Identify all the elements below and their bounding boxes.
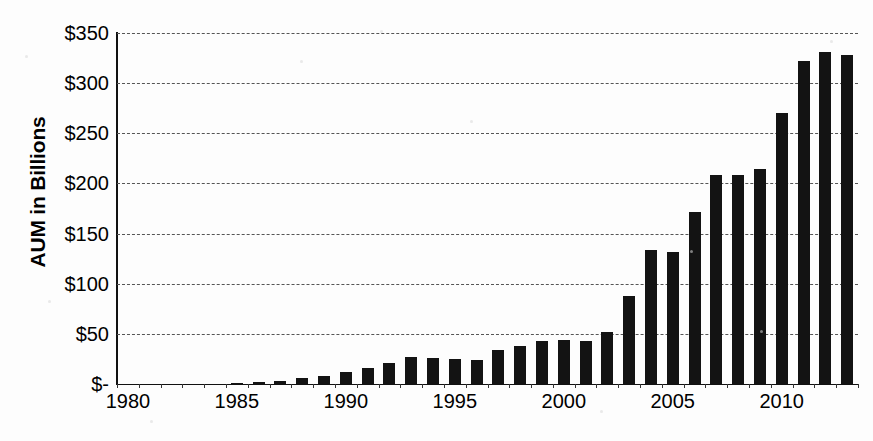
x-tick [182,384,183,388]
x-tick [575,384,576,388]
bar [274,381,286,384]
y-tick-label: $250 [33,122,109,145]
x-tick [553,384,554,388]
x-tick [466,384,467,388]
y-tick-label: $300 [33,72,109,95]
x-tick [270,384,271,388]
speck [25,55,28,58]
bar [427,358,439,384]
speck [600,410,603,413]
x-tick [204,384,205,388]
x-tick [422,384,423,388]
y-tick-label: $150 [33,222,109,245]
speck [760,330,763,333]
bar [710,175,722,384]
x-tick [793,384,794,388]
x-tick [291,384,292,388]
bar [471,360,483,384]
bar [645,250,657,384]
bar [558,340,570,384]
x-tick [727,384,728,388]
bar [819,52,831,384]
bar [798,61,810,384]
bar [318,376,330,384]
gridline [117,33,858,34]
x-tick [139,384,140,388]
x-tick [509,384,510,388]
x-tick [662,384,663,388]
bar [732,175,744,384]
bar [841,55,853,384]
speck [830,40,833,43]
bar [514,346,526,384]
x-tick [749,384,750,388]
x-tick [226,384,227,388]
x-tick [771,384,772,388]
x-tick [684,384,685,388]
y-tick-label: $350 [33,22,109,45]
bar [405,357,417,384]
x-tick [858,384,859,388]
x-tick [640,384,641,388]
bar [492,350,504,384]
bar [253,382,265,384]
x-tick-label: 1985 [215,390,260,413]
speck [690,250,693,253]
gridline [117,334,858,335]
speck [48,300,51,303]
plot-area [117,33,858,384]
bar [362,368,374,384]
x-tick [379,384,380,388]
x-tick-label: 1995 [433,390,478,413]
x-tick [117,384,118,388]
x-tick-label: 2000 [542,390,587,413]
gridline [117,83,858,84]
bar [754,169,766,384]
speck [150,420,153,423]
bar [689,212,701,384]
gridline [117,284,858,285]
x-tick [836,384,837,388]
y-tick-label: $200 [33,172,109,195]
x-tick-label: 1980 [106,390,151,413]
x-tick [814,384,815,388]
x-tick [313,384,314,388]
bar [383,363,395,384]
bar [776,113,788,384]
gridline [117,133,858,134]
speck [380,30,383,33]
x-tick [400,384,401,388]
bar [623,296,635,384]
y-tick-label: $- [33,373,109,396]
y-tick-label: $100 [33,272,109,295]
x-tick-label: 2005 [651,390,696,413]
x-tick [705,384,706,388]
gridline [117,183,858,184]
bar [340,372,352,384]
x-tick [248,384,249,388]
x-tick [444,384,445,388]
x-tick [357,384,358,388]
x-tick-label: 1990 [324,390,369,413]
x-tick [161,384,162,388]
x-tick [618,384,619,388]
bar [667,252,679,384]
bar-chart: AUM in Billions $-$50$100$150$200$250$30… [0,0,873,441]
bar [231,383,243,384]
gridline [117,234,858,235]
bar [601,332,613,384]
x-tick [335,384,336,388]
x-tick-label: 2010 [759,390,804,413]
x-tick [596,384,597,388]
y-tick-label: $50 [33,322,109,345]
bar [536,341,548,384]
x-tick [488,384,489,388]
bar [296,378,308,384]
speck [470,120,473,123]
bar [449,359,461,384]
bar [580,341,592,384]
speck [300,60,303,63]
x-tick [531,384,532,388]
